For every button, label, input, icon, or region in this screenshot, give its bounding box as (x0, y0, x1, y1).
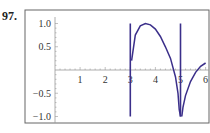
line-chart: 1234561.00.5−0.5−1.0 (0, 0, 210, 133)
x-tick-label: 6 (203, 74, 208, 85)
y-tick-label: 0.5 (39, 41, 52, 52)
x-tick-label: 4 (153, 74, 158, 85)
y-tick-label: 1.0 (39, 18, 52, 29)
x-tick-label: 1 (78, 74, 83, 85)
plot-frame (25, 10, 209, 123)
y-tick-label: −0.5 (33, 88, 51, 99)
x-tick-label: 2 (103, 74, 108, 85)
y-tick-label: −1.0 (33, 111, 51, 122)
